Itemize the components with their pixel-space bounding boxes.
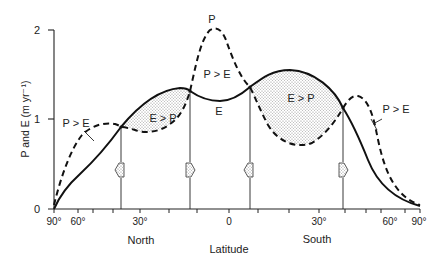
- region-label-p-gt-e: P > E: [203, 68, 230, 80]
- region-label-e-gt-p: E > P: [149, 112, 176, 124]
- x-axis-title: Latitude: [209, 243, 248, 255]
- x-tick-label: 0: [226, 216, 232, 227]
- x-tick-label: 30°: [132, 216, 147, 227]
- y-axis-title: P and E (m yr⁻¹): [19, 81, 31, 158]
- axes: [48, 30, 420, 209]
- x-tick-label: 90°: [411, 216, 426, 227]
- curve-label-e: E: [215, 105, 222, 117]
- arrow-left-icon: [244, 163, 253, 177]
- chart: 2 1 0 P and E (m yr⁻¹) 90° 60° 30° 0 30°…: [0, 0, 430, 261]
- x-tick-label: 90°: [46, 216, 61, 227]
- y-tick-label: 2: [34, 24, 40, 36]
- x-tick-label: 30°: [311, 216, 326, 227]
- shaded-region-e-gt-p-north: [121, 88, 190, 132]
- x-ticks: [54, 209, 420, 213]
- arrow-right-icon: [186, 163, 195, 177]
- x-tick-label: 60°: [70, 216, 85, 227]
- region-label-e-gt-p: E > P: [287, 92, 314, 104]
- hemisphere-label-south: South: [303, 233, 332, 245]
- transport-arrows: [115, 163, 348, 177]
- y-tick-label: 1: [34, 113, 40, 125]
- arrow-left-icon: [115, 163, 124, 177]
- x-tick-label: 60°: [382, 216, 397, 227]
- arrow-right-icon: [339, 163, 348, 177]
- region-label-p-gt-e: P > E: [382, 103, 409, 115]
- hemisphere-label-north: North: [128, 234, 155, 246]
- curve-label-p: P: [208, 13, 215, 25]
- curve-p: [54, 28, 420, 205]
- shaded-region-e-gt-p-south: [250, 70, 343, 145]
- curve-e: [54, 70, 420, 209]
- region-label-p-gt-e: P > E: [62, 117, 89, 129]
- y-tick-label: 0: [34, 203, 40, 215]
